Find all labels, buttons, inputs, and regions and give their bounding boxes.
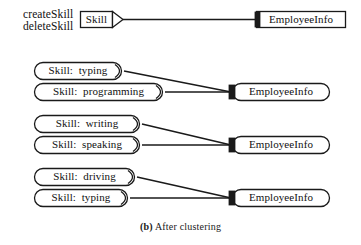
- skill-box-label: Skill: [80, 14, 113, 25]
- clustering-figure: createSkill deleteSkill Skill EmployeeIn…: [0, 0, 361, 245]
- figure-caption: (b) After clustering: [0, 221, 361, 232]
- employeeinfo-label-c2: EmployeeInfo: [233, 139, 329, 150]
- skill-speaking-label-c2: Skill: speaking: [35, 139, 139, 150]
- operation-label-delete-skill: deleteSkill: [23, 21, 73, 33]
- skill-typing-label-c3: Skill: typing: [35, 192, 127, 203]
- skill-writing-label-c2: Skill: writing: [35, 118, 139, 129]
- employeeinfo-label-c3: EmployeeInfo: [233, 192, 329, 203]
- figure-caption-prefix: (b): [140, 221, 153, 232]
- employeeinfo-label-original: EmployeeInfo: [257, 14, 345, 25]
- figure-caption-text: After clustering: [155, 221, 221, 232]
- connector-line-c3-p1: [137, 177, 231, 198]
- skill-provided-interface-point: [113, 12, 124, 28]
- connector-line-c2-p1: [142, 124, 231, 145]
- skill-programming-label-c1: Skill: programming: [35, 86, 162, 97]
- skill-typing-label-c1: Skill: typing: [35, 65, 121, 76]
- operation-label-create-skill: createSkill: [23, 9, 73, 21]
- employeeinfo-label-c1: EmployeeInfo: [233, 86, 329, 97]
- skill-driving-label-c3: Skill: driving: [35, 171, 134, 182]
